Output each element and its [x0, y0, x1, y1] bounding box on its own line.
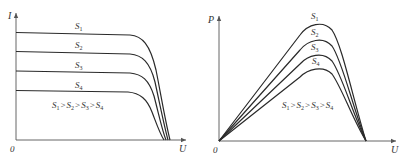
- pu-label-s2: S2: [311, 27, 319, 38]
- pu-plot: P U 0 S1 S2 S3 S4 S1>S2>S3>S4: [207, 11, 399, 155]
- iu-label-s2: S2: [75, 40, 83, 51]
- iu-label-s4: S4: [75, 80, 83, 91]
- iu-plot: I U 0 S1 S2 S3 S4 S1>S2>S3>S4: [7, 10, 187, 154]
- right-origin-label: 0: [213, 145, 218, 155]
- left-x-axis-label: U: [179, 143, 187, 154]
- iu-curve-s1: [16, 33, 170, 141]
- right-x-axis-label: U: [391, 144, 399, 155]
- pu-relation-text: S1>S2>S3>S4: [282, 100, 333, 111]
- left-origin-label: 0: [10, 144, 15, 154]
- pu-label-s4: S4: [312, 56, 320, 67]
- pu-label-s1: S1: [311, 11, 319, 22]
- pu-curve-s2: [219, 40, 366, 141]
- pu-curve-s3: [219, 55, 366, 141]
- pu-label-s3: S3: [311, 42, 319, 53]
- right-y-axis-label: P: [207, 14, 214, 25]
- iu-curve-s2: [16, 52, 168, 141]
- iu-label-s1: S1: [75, 21, 83, 32]
- iu-label-s3: S3: [75, 60, 83, 71]
- iu-curve-s4: [16, 91, 164, 141]
- diagram-canvas: I U 0 S1 S2 S3 S4 S1>S2>S3>S4 P U 0 S1 S…: [0, 0, 404, 161]
- iu-relation-text: S1>S2>S3>S4: [52, 100, 103, 111]
- left-y-axis-label: I: [7, 10, 12, 21]
